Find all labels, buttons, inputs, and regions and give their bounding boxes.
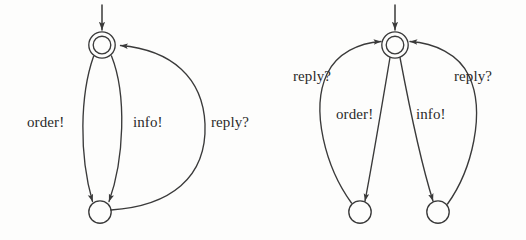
left-transition-order-label: order! xyxy=(27,115,64,130)
left-state-s1-circle xyxy=(89,201,111,223)
right-transition-info-label: info! xyxy=(416,107,446,122)
right-state-t2-circle xyxy=(427,201,449,223)
state-diagram-graphics xyxy=(0,0,526,240)
right-transition-order-label: order! xyxy=(336,107,373,122)
right-transition-reply-right-edge xyxy=(410,42,476,205)
right-transition-reply-left-label: reply? xyxy=(293,69,331,84)
left-transition-info-edge xyxy=(109,56,122,202)
right-state-t1-circle xyxy=(349,201,371,223)
left-transition-order-edge xyxy=(83,57,94,202)
right-transition-reply-right-label: reply? xyxy=(454,69,492,84)
right-transition-reply-left-edge xyxy=(320,42,381,204)
left-transition-info-label: info! xyxy=(133,115,163,130)
left-state-s0-inner-circle xyxy=(93,36,111,54)
left-transition-reply-label: reply? xyxy=(211,115,249,130)
right-state-t0-inner-circle xyxy=(386,36,404,54)
figure-canvas: order! info! reply? reply? reply? order!… xyxy=(0,0,526,240)
right-transition-info-edge xyxy=(400,58,433,202)
right-transition-order-edge xyxy=(365,58,390,202)
